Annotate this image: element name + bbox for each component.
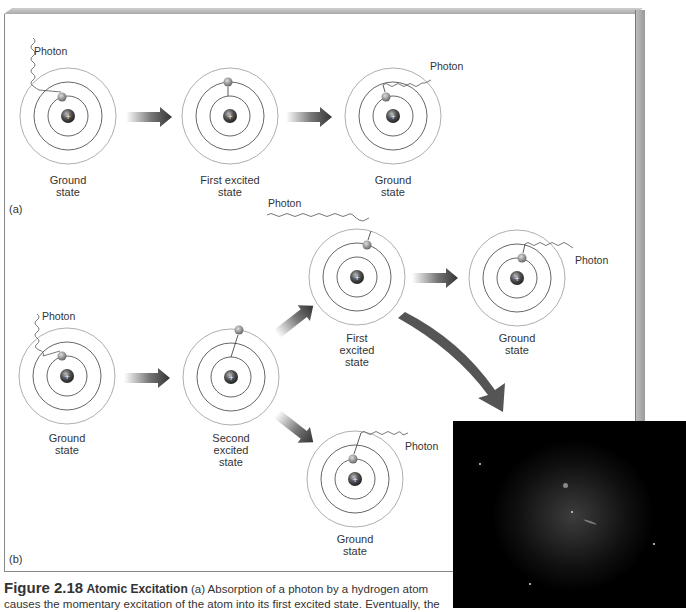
star [653, 543, 655, 545]
photon-wave-icon [383, 80, 431, 87]
nebula-photo [453, 421, 686, 608]
atom-b3-label: First excited state [327, 332, 387, 368]
state-label-line: Ground [487, 332, 547, 344]
arrow-right-icon [126, 107, 172, 127]
arrow-right-icon [286, 107, 332, 127]
figure-caption: Figure 2.18 Atomic Excitation (a) Absorp… [4, 580, 450, 612]
photon-label: Photon [34, 45, 67, 57]
atom-b2-second-excited [183, 326, 279, 426]
state-label-line: Ground [37, 432, 97, 444]
photon-label: Photon [42, 310, 75, 322]
photon-label: Photon [268, 197, 301, 209]
atom-b2-label: Second excited state [201, 432, 261, 468]
state-label-line: Ground [325, 533, 385, 545]
atom-a3-ground [345, 68, 441, 164]
arrow-down-right-icon [271, 406, 320, 450]
state-label-line: state [487, 344, 547, 356]
nebula-glow [493, 441, 653, 591]
arrow-right-icon [412, 268, 458, 288]
atom-b4-label: Ground state [487, 332, 547, 356]
atom-b4-ground [469, 230, 573, 326]
atom-a1-label: Ground state [38, 174, 98, 198]
photon-label: Photon [405, 440, 438, 452]
arrow-up-right-icon [271, 298, 320, 342]
state-label-line: Ground [363, 174, 423, 186]
photon-wave-icon [361, 432, 408, 436]
photon-wave-icon [267, 214, 369, 222]
panel-b-label: (b) [9, 553, 22, 565]
photon-label: Photon [430, 60, 463, 72]
photon-label: Photon [575, 254, 608, 266]
state-label-line: state [363, 186, 423, 198]
atom-b3-first-excited [267, 214, 405, 326]
state-label-line: Ground [38, 174, 98, 186]
atom-b5-label: Ground state [325, 533, 385, 557]
state-label-line: state [327, 356, 387, 368]
figure-title: Atomic Excitation [86, 582, 187, 596]
state-label-line: state [38, 186, 98, 198]
figure-number: Figure 2.18 [4, 579, 83, 596]
atom-a3-label: Ground state [363, 174, 423, 198]
atom-b5-ground [307, 431, 408, 527]
star [571, 511, 573, 513]
star [529, 583, 531, 585]
arrow-right-icon [124, 368, 170, 388]
state-label-line: state [190, 186, 270, 198]
state-label-line: state [325, 545, 385, 557]
atom-b1-ground [19, 314, 115, 424]
curved-arrow-icon [398, 312, 505, 412]
star [479, 463, 481, 465]
state-label-line: First [327, 332, 387, 344]
panel-a-label: (a) [9, 203, 22, 215]
state-label-line: Second [201, 432, 261, 444]
state-label-line: First excited [190, 174, 270, 186]
state-label-line: excited [327, 344, 387, 356]
state-label-line: state [201, 456, 261, 468]
atom-a2-label: First excited state [190, 174, 270, 198]
atom-a2-first-excited [182, 68, 278, 164]
atom-b1-label: Ground state [37, 432, 97, 456]
state-label-line: excited [201, 444, 261, 456]
star [563, 483, 568, 488]
state-label-line: state [37, 444, 97, 456]
